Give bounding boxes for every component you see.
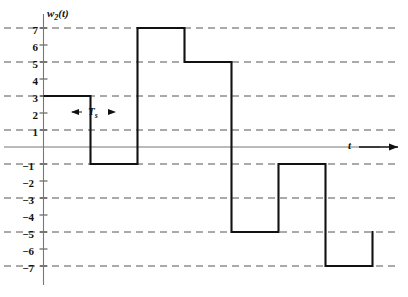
y-tick-label: 6 <box>12 42 38 53</box>
y-tick-label: −3 <box>8 195 34 206</box>
y-tick-label: 4 <box>12 76 38 87</box>
y-tick-label: 1 <box>12 127 38 138</box>
x-axis-label: t <box>348 140 351 151</box>
y-tick-label: 7 <box>12 25 38 36</box>
y-tick-label: −4 <box>8 212 34 223</box>
waveform-plot <box>0 0 408 297</box>
x-axis-arrow-icon <box>359 143 398 150</box>
y-tick-label: −7 <box>8 263 34 274</box>
y-tick-label: 5 <box>12 59 38 70</box>
y-tick-label: −1 <box>8 161 34 172</box>
y-tick-label: −5 <box>8 229 34 240</box>
y-tick-label: −2 <box>8 178 34 189</box>
y-tick-label: 3 <box>12 93 38 104</box>
sample-period-label: Ts <box>88 106 98 120</box>
waveform-figure: 7 6 5 4 3 2 1 −1 −2 −3 −4 −5 −6 −7 w2(t)… <box>0 0 408 297</box>
y-axis-label: w2(t) <box>47 8 69 22</box>
y-tick-label: 2 <box>12 110 38 121</box>
y-tick-label: −6 <box>8 246 34 257</box>
